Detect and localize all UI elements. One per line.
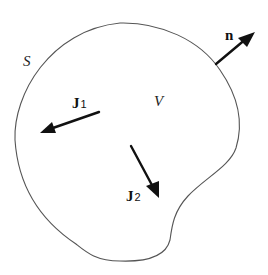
surface-label: S (23, 53, 31, 69)
current-j1-label: J1 (72, 95, 87, 111)
region-diagram: n J1 J2 S V (0, 0, 268, 275)
current-j2-label: J2 (126, 188, 141, 204)
current-j1-arrow (40, 112, 99, 133)
arrowhead-icon (40, 122, 56, 133)
normal-vector-arrow (216, 32, 255, 64)
surface-outline (15, 23, 240, 261)
normal-vector-label: n (225, 27, 234, 43)
volume-label: V (154, 93, 165, 109)
arrowhead-icon (146, 181, 159, 198)
